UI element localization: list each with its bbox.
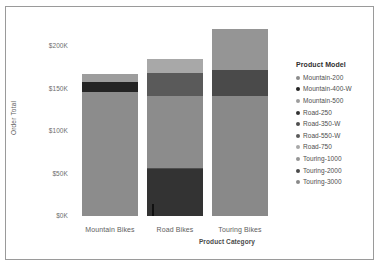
legend-item[interactable]: Road-250 <box>296 107 374 119</box>
bar-segment[interactable] <box>147 73 203 96</box>
legend-swatch-icon <box>296 99 300 103</box>
legend-item-label: Touring-1000 <box>303 155 342 163</box>
bar-segment[interactable] <box>82 92 138 216</box>
legend-swatch-icon <box>296 76 300 80</box>
y-axis-tick-label: $150K <box>49 85 68 93</box>
bar-segment[interactable] <box>147 59 203 73</box>
legend-swatch-icon <box>296 157 300 161</box>
stacked-bar-chart-figure: Order Total $0K$50K$100K$150K$200K Mount… <box>0 0 380 267</box>
legend-item-label: Mountain-500 <box>303 97 343 105</box>
legend-item-label: Road-550-W <box>303 132 340 140</box>
y-axis-tick-label: $50K <box>52 170 68 178</box>
bar-stack[interactable] <box>212 29 268 216</box>
legend-swatch-icon <box>296 122 300 126</box>
legend-swatch-icon <box>296 111 300 115</box>
bar-segment[interactable] <box>212 96 268 216</box>
legend-items: Mountain-200Mountain-400-WMountain-500Ro… <box>296 72 374 188</box>
legend-item-label: Mountain-200 <box>303 74 343 82</box>
legend-swatch-icon <box>296 180 300 184</box>
bar-stack[interactable] <box>82 74 138 216</box>
bar-segment[interactable] <box>82 82 138 92</box>
bar-stack[interactable] <box>147 60 203 216</box>
legend-item-label: Touring-3000 <box>303 178 342 186</box>
bar-segment[interactable] <box>82 74 138 82</box>
legend-item[interactable]: Touring-3000 <box>296 176 374 188</box>
bar-segment[interactable] <box>212 70 268 96</box>
y-axis-tick-label: $100K <box>49 127 68 135</box>
legend-item[interactable]: Road-350-W <box>296 118 374 130</box>
legend-title: Product Model <box>296 61 374 68</box>
y-axis-title: Order Total <box>10 101 17 135</box>
legend-item-label: Road-250 <box>303 109 332 117</box>
legend-swatch-icon <box>296 169 300 173</box>
bar-segment[interactable] <box>212 29 268 70</box>
legend-swatch-icon <box>296 87 300 91</box>
bar-segment[interactable] <box>147 169 203 216</box>
legend-item-label: Touring-2000 <box>303 167 342 175</box>
legend-item[interactable]: Road-550-W <box>296 130 374 142</box>
y-axis-tick-label: $200K <box>49 42 68 50</box>
legend-swatch-icon <box>296 145 300 149</box>
legend-item[interactable]: Mountain-200 <box>296 72 374 84</box>
legend-item-label: Road-750 <box>303 143 332 151</box>
legend: Product Model Mountain-200Mountain-400-W… <box>296 61 374 188</box>
bar-segment[interactable] <box>147 168 203 169</box>
legend-item[interactable]: Touring-1000 <box>296 153 374 165</box>
legend-item[interactable]: Mountain-500 <box>296 95 374 107</box>
x-axis-title: Product Category <box>172 238 282 245</box>
bar-segment-sliver <box>152 204 154 216</box>
legend-swatch-icon <box>296 134 300 138</box>
legend-item-label: Mountain-400-W <box>303 85 352 93</box>
bar-segment[interactable] <box>147 96 203 168</box>
x-axis-tick-label: Touring Bikes <box>195 226 285 233</box>
y-axis-tick-label: $0K <box>56 212 68 220</box>
legend-item[interactable]: Touring-2000 <box>296 165 374 177</box>
legend-item-label: Road-350-W <box>303 120 340 128</box>
legend-item[interactable]: Road-750 <box>296 142 374 154</box>
legend-item[interactable]: Mountain-400-W <box>296 84 374 96</box>
